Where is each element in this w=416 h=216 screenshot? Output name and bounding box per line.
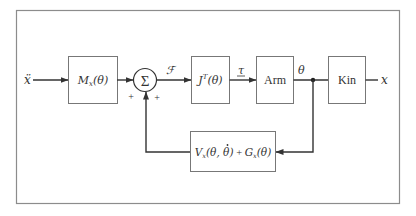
sum-symbol: Σ: [141, 73, 150, 89]
force-signal-label: ℱ: [166, 64, 177, 77]
joint-angle-signal-label: θ: [298, 64, 305, 77]
sum-sign-left: +: [128, 91, 134, 102]
mass-matrix-label: Mx(θ): [77, 74, 108, 88]
diagram-frame: [17, 11, 400, 204]
block-diagram: ẍ Mx(θ) Σ + + ℱ JT(θ) τ Arm θ Kin x Vx(θ…: [0, 0, 416, 216]
output-label: x: [381, 73, 388, 87]
kinematics-label: Kin: [338, 73, 356, 87]
velocity-gravity-label: Vx(θ, θ) + Gx(θ): [195, 146, 272, 160]
torque-signal-label: τ: [238, 64, 245, 77]
jacobian-transpose-label: JT(θ): [196, 73, 222, 87]
theta-dot-marker: [227, 144, 229, 146]
input-label: ẍ: [24, 73, 31, 87]
sum-sign-bottom: +: [154, 92, 160, 103]
arm-label: Arm: [264, 73, 287, 87]
feedback-path-out: [146, 92, 190, 152]
